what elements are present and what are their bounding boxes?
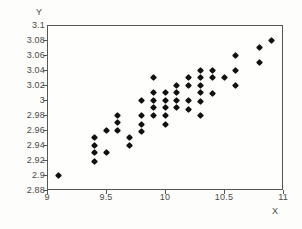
y-axis-tick-label: 3.06 [0,51,45,60]
x-axis-tick-mark [165,190,166,194]
x-axis-tick-label: 10 [145,193,185,202]
plot-area-frame [47,25,283,190]
x-axis-tick-label: 10.5 [204,193,244,202]
y-axis-tick-label: 2.94 [0,141,45,150]
y-axis-tick-mark [43,160,47,161]
y-axis-tick-mark [43,55,47,56]
scatter-plot-figure: Y X 3.13.083.063.043.0232.982.962.942.92… [0,0,302,229]
y-axis-tick-label: 3.04 [0,66,45,75]
y-axis-tick-label: 3.1 [0,21,45,30]
y-axis-tick-mark [43,70,47,71]
y-axis-tick-label: 3.02 [0,81,45,90]
y-axis-title: Y [36,8,42,17]
x-axis-tick-mark [106,190,107,194]
y-axis-tick-mark [43,40,47,41]
x-axis-tick-mark [283,190,284,194]
x-axis-tick-label: 11 [263,193,302,202]
y-axis-tick-label: 2.9 [0,171,45,180]
y-axis-tick-label: 2.98 [0,111,45,120]
x-axis-title: X [272,207,278,216]
y-axis-tick-mark [43,85,47,86]
y-axis-tick-mark [43,145,47,146]
y-axis-tick-mark [43,100,47,101]
y-axis-tick-label: 3.08 [0,36,45,45]
y-axis-tick-mark [43,115,47,116]
y-axis-tick-label: 2.96 [0,126,45,135]
x-axis-tick-mark [224,190,225,194]
x-axis-tick-label: 9 [27,193,67,202]
y-axis-tick-label: 2.92 [0,156,45,165]
x-axis-tick-label: 9.5 [86,193,126,202]
x-axis-tick-mark [47,190,48,194]
y-axis-tick-mark [43,130,47,131]
y-axis-tick-label: 3 [0,96,45,105]
y-axis-tick-mark [43,175,47,176]
